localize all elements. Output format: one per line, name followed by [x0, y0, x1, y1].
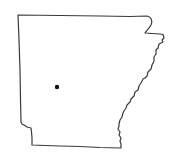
arkansas-outline-svg [0, 0, 170, 153]
state-outline-map [0, 0, 170, 153]
location-marker [55, 85, 59, 89]
state-border [18, 15, 164, 148]
